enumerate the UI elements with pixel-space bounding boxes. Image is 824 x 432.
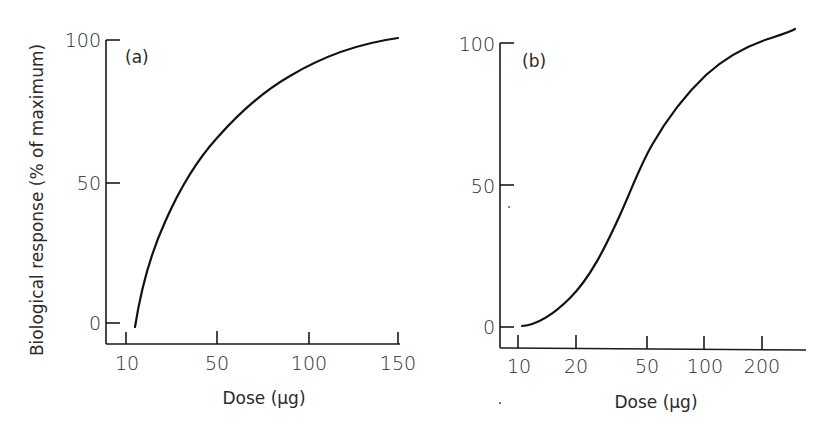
panel-label: (a): [125, 47, 149, 67]
scan-speck: [508, 206, 510, 208]
y-axis-title: Biological response (% of maximum): [27, 44, 47, 356]
x-tick-label: 100: [291, 352, 327, 374]
x-tick-label: 10: [115, 352, 139, 374]
dose-response-curve: [522, 29, 795, 326]
x-tick-label: 100: [687, 355, 723, 377]
x-tick-label: 10: [507, 355, 531, 377]
y-tick-label: 100: [65, 29, 101, 51]
panel-label: (b): [522, 51, 546, 71]
panel-a: Biological response (% of maximum) 100 5…: [27, 29, 416, 408]
figure: Biological response (% of maximum) 100 5…: [0, 0, 824, 432]
x-axis-title: Dose (μg): [222, 388, 305, 408]
y-tick-label: 0: [483, 316, 495, 338]
y-tick-label: 0: [89, 312, 101, 334]
x-tick-label: 50: [635, 355, 659, 377]
x-tick-label: 150: [380, 352, 416, 374]
x-tick-label: 20: [564, 355, 588, 377]
y-tick-label: 50: [471, 175, 495, 197]
scan-speck: [499, 402, 501, 404]
x-axis-line: [500, 348, 806, 350]
dose-response-curve: [135, 38, 398, 327]
y-tick-label: 50: [77, 172, 101, 194]
x-tick-label: 50: [205, 352, 229, 374]
panel-b: 100 50 0 10 20 50 100 200 Dose (μg) (b): [459, 29, 806, 412]
y-tick-label: 100: [459, 33, 495, 55]
x-tick-label: 200: [744, 355, 780, 377]
x-axis-title: Dose (μg): [614, 392, 697, 412]
